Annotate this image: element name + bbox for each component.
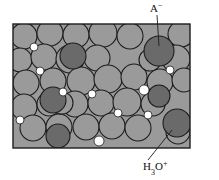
- anion-label: A−: [150, 1, 163, 15]
- sphere-light: [73, 114, 99, 140]
- interstitial-void: [166, 66, 174, 74]
- interstitial-void: [94, 136, 104, 146]
- packing-diagram: A− H3O+: [0, 0, 219, 180]
- hydronium-charge: +: [163, 159, 168, 168]
- sphere-light: [94, 65, 122, 93]
- interstitial-void: [36, 67, 44, 75]
- interstitial-void: [144, 111, 152, 119]
- hydronium-oxygen: O: [155, 160, 163, 172]
- hydronium-sphere: [163, 109, 191, 137]
- figure-canvas: A− H3O+: [0, 0, 219, 180]
- sphere-light: [89, 19, 117, 47]
- dark-sphere-upper-left: [60, 43, 86, 69]
- hydronium-label: H3O+: [143, 159, 168, 177]
- dark-sphere-lower-left: [46, 124, 70, 148]
- sphere-light: [117, 23, 143, 49]
- interstitial-void: [88, 90, 96, 98]
- sphere-light: [99, 113, 125, 139]
- sphere-light: [13, 70, 39, 96]
- interstitial-void: [139, 85, 149, 95]
- sphere-light: [172, 68, 196, 92]
- interstitial-void: [114, 109, 122, 117]
- anion-charge: −: [158, 1, 163, 10]
- interstitial-void: [16, 116, 24, 124]
- interstitial-void: [30, 43, 38, 51]
- dark-sphere-right: [148, 85, 170, 107]
- interstitial-void: [59, 88, 67, 96]
- sphere-light: [8, 48, 32, 72]
